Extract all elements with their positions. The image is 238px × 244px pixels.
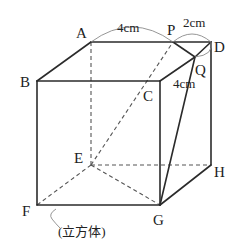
label-C: C — [143, 88, 153, 104]
label-P: P — [167, 22, 175, 38]
measure-DQ: 4cm — [173, 76, 195, 91]
label-G: G — [153, 212, 164, 228]
label-E: E — [74, 150, 83, 166]
label-B: B — [20, 74, 30, 90]
label-A: A — [76, 25, 87, 41]
label-F: F — [22, 203, 30, 219]
figure-caption: (立方体) — [58, 224, 106, 239]
edge-PQ — [173, 42, 195, 57]
cube-figure: A B C D E F G H P Q 4cm 2cm 4cm (立方体) — [0, 0, 238, 244]
measure-PD: 2cm — [183, 15, 205, 30]
hidden-edges — [37, 42, 211, 205]
label-H: H — [214, 164, 225, 180]
label-Q: Q — [195, 62, 206, 78]
edge-EF — [37, 165, 91, 205]
label-D: D — [214, 39, 225, 55]
measure-AP: 4cm — [117, 20, 139, 35]
vertex-labels: A B C D E F G H P Q — [20, 22, 225, 228]
measurement-arcs — [51, 27, 212, 228]
arc-PD — [173, 34, 211, 42]
edge-QD — [195, 42, 211, 57]
visible-edges — [37, 42, 211, 205]
edge-AB — [37, 42, 91, 81]
edge-EG — [91, 165, 160, 205]
